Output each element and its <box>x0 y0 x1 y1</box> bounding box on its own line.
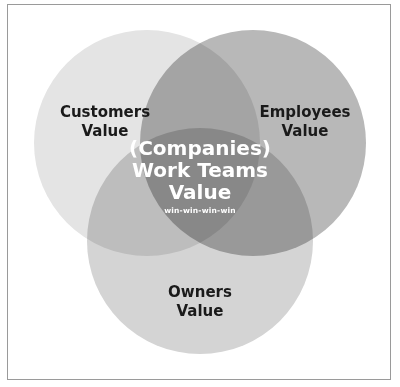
owners-label-line2: Value <box>140 302 260 321</box>
center-subtitle: win-win-win-win <box>140 206 260 215</box>
customers-label-line1: Customers <box>40 103 170 122</box>
center-label-line2: Work Teams <box>120 159 280 181</box>
owners-label: Owners Value <box>140 283 260 321</box>
center-label: (Companies) Work Teams Value <box>120 137 280 203</box>
center-label-line3: Value <box>120 181 280 203</box>
employees-label-line1: Employees <box>245 103 365 122</box>
owners-label-line1: Owners <box>140 283 260 302</box>
center-label-line1: (Companies) <box>120 137 280 159</box>
